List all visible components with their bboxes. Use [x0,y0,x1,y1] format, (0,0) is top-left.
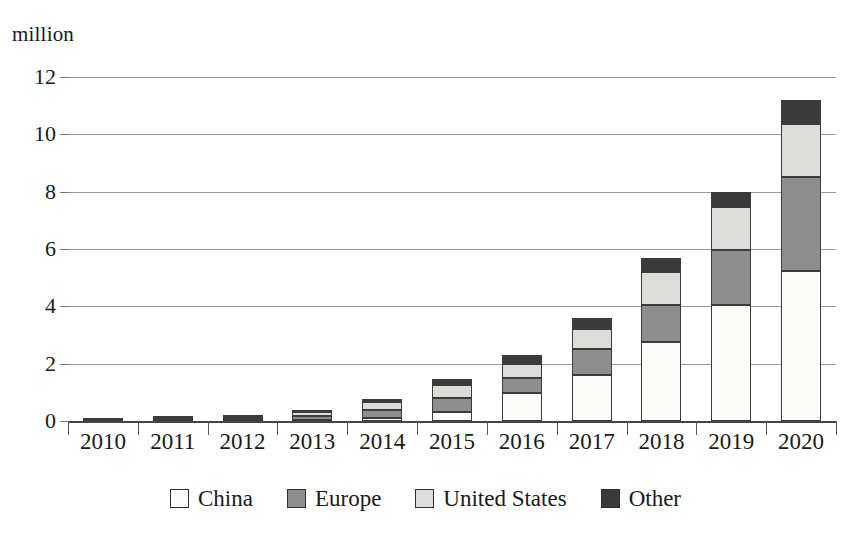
bar-group-2018[interactable] [641,77,681,421]
bar-series-container [68,77,836,421]
bar-segment-2018-united-states[interactable] [641,272,681,305]
x-tick-separator-0 [68,421,69,435]
legend-label: Other [629,487,681,510]
y-tick-mark-8 [60,192,69,193]
stacked-bar-chart: million 024681012 ChinaEuropeUnited Stat… [0,0,851,540]
legend-label: Europe [315,487,381,510]
y-tick-label-0: 0 [12,410,56,432]
x-tick-label-2013: 2013 [277,430,347,453]
bar-segment-2014-europe[interactable] [362,410,402,417]
y-tick-mark-6 [60,249,69,250]
x-tick-separator-end [836,421,837,435]
bar-segment-2015-europe[interactable] [432,398,472,412]
bar-segment-2010-other[interactable] [83,418,123,420]
x-tick-label-2015: 2015 [417,430,487,453]
legend-swatch-icon-china [170,489,189,508]
x-tick-label-2019: 2019 [696,430,766,453]
y-tick-label-10: 10 [12,123,56,145]
x-tick-separator-8 [627,421,628,435]
y-tick-label-2: 2 [12,353,56,375]
bar-segment-2017-other[interactable] [572,318,612,329]
bar-segment-2016-united-states[interactable] [502,364,542,378]
x-tick-label-2014: 2014 [347,430,417,453]
x-tick-label-2011: 2011 [138,430,208,453]
bar-segment-2013-other[interactable] [292,410,332,412]
bar-segment-2019-united-states[interactable] [711,207,751,250]
x-tick-label-2016: 2016 [487,430,557,453]
x-tick-separator-7 [557,421,558,435]
legend-swatch-icon-other [601,489,620,508]
bar-segment-2018-china[interactable] [641,342,681,421]
x-tick-separator-9 [696,421,697,435]
bar-group-2010[interactable] [83,77,123,421]
bar-segment-2012-united-states[interactable] [223,417,263,419]
bar-segment-2015-other[interactable] [432,379,472,384]
y-tick-mark-12 [60,77,69,78]
x-tick-separator-10 [766,421,767,435]
plot-area [68,77,836,421]
x-tick-separator-6 [487,421,488,435]
y-tick-mark-4 [60,306,69,307]
x-tick-separator-3 [277,421,278,435]
bar-segment-2016-china[interactable] [502,393,542,421]
y-tick-mark-10 [60,134,69,135]
bar-group-2012[interactable] [223,77,263,421]
y-tick-mark-2 [60,364,69,365]
y-tick-label-8: 8 [12,181,56,203]
bar-segment-2020-other[interactable] [781,100,821,124]
x-tick-label-2012: 2012 [208,430,278,453]
bar-segment-2016-europe[interactable] [502,378,542,393]
x-tick-separator-5 [417,421,418,435]
bar-group-2019[interactable] [711,77,751,421]
bar-segment-2018-europe[interactable] [641,305,681,342]
x-tick-separator-2 [208,421,209,435]
legend-swatch-icon-united-states [415,489,434,508]
bar-segment-2016-other[interactable] [502,355,542,364]
x-tick-label-2017: 2017 [557,430,627,453]
bar-segment-2017-china[interactable] [572,375,612,421]
x-tick-label-2018: 2018 [627,430,697,453]
bar-group-2014[interactable] [362,77,402,421]
bar-group-2015[interactable] [432,77,472,421]
bar-group-2016[interactable] [502,77,542,421]
legend-label: United States [443,487,566,510]
bar-segment-2020-united-states[interactable] [781,124,821,177]
bar-segment-2013-united-states[interactable] [292,412,332,417]
bar-segment-2011-other[interactable] [153,416,193,418]
bar-segment-2019-china[interactable] [711,305,751,421]
y-axis-tick-labels: 024681012 [0,77,56,421]
bar-group-2011[interactable] [153,77,193,421]
legend-swatch-icon-europe [287,489,306,508]
x-axis-line [68,421,836,422]
legend-item-other[interactable]: Other [601,487,681,510]
legend-item-europe[interactable]: Europe [287,487,381,510]
x-tick-label-2020: 2020 [766,430,836,453]
bar-segment-2017-united-states[interactable] [572,329,612,349]
bar-segment-2015-united-states[interactable] [432,385,472,398]
bar-segment-2015-china[interactable] [432,412,472,421]
x-tick-separator-4 [347,421,348,435]
bar-segment-2014-united-states[interactable] [362,402,402,410]
y-tick-label-6: 6 [12,238,56,260]
bar-segment-2019-other[interactable] [711,192,751,208]
bar-segment-2012-other[interactable] [223,415,263,417]
legend-label: China [198,487,253,510]
legend-item-united-states[interactable]: United States [415,487,566,510]
bar-segment-2014-other[interactable] [362,399,402,402]
y-axis-unit-label: million [12,22,74,47]
bar-segment-2018-other[interactable] [641,258,681,272]
bar-group-2017[interactable] [572,77,612,421]
bar-group-2020[interactable] [781,77,821,421]
x-tick-label-2010: 2010 [68,430,138,453]
bar-segment-2020-europe[interactable] [781,177,821,270]
y-tick-label-4: 4 [12,295,56,317]
legend-item-china[interactable]: China [170,487,253,510]
y-tick-label-12: 12 [12,66,56,88]
x-tick-separator-1 [138,421,139,435]
bar-segment-2020-china[interactable] [781,271,821,422]
bar-group-2013[interactable] [292,77,332,421]
bar-segment-2013-europe[interactable] [292,416,332,420]
bar-segment-2017-europe[interactable] [572,349,612,375]
chart-legend: ChinaEuropeUnited StatesOther [0,487,851,510]
bar-segment-2019-europe[interactable] [711,250,751,304]
